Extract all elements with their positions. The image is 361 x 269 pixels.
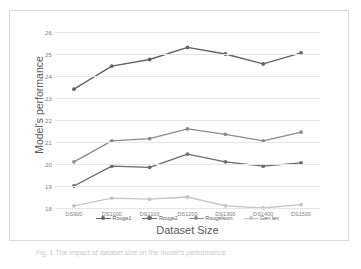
figure-caption: Fig. 1 The impact of dataset size on the… [36, 248, 336, 258]
data-point [72, 87, 76, 91]
data-point [148, 197, 152, 201]
legend-swatch-icon [96, 215, 111, 222]
y-tick-label-23: 23 [45, 95, 52, 102]
gridline-23 [55, 98, 320, 99]
y-tick-label-22: 22 [45, 117, 52, 124]
data-point [186, 46, 190, 50]
gridline-25 [55, 54, 320, 55]
legend-label: Rouge2 [159, 215, 178, 222]
data-point [148, 165, 152, 169]
chart-frame: Model's performance 181920212223242526 D… [9, 10, 349, 241]
data-point [299, 130, 303, 134]
data-point [186, 152, 190, 156]
legend-item-rouge1[interactable]: Rouge1 [96, 215, 131, 222]
x-axis-title: Dataset Size [55, 223, 320, 237]
y-tick-label-24: 24 [45, 73, 52, 80]
legend-label: Rouge1 [113, 215, 132, 222]
y-tick-label-20: 20 [45, 161, 52, 168]
figure-container: Model's performance 181920212223242526 D… [0, 0, 361, 269]
data-point [186, 195, 190, 199]
series-rougelsum [72, 127, 303, 164]
legend-swatch-icon [142, 215, 157, 222]
data-point [110, 196, 114, 200]
data-point [223, 132, 227, 136]
series-rouge1 [72, 46, 303, 92]
gridline-18 [55, 208, 320, 209]
data-point [148, 58, 152, 62]
data-point [299, 203, 303, 207]
legend-item-rouge2[interactable]: Rouge2 [142, 215, 177, 222]
y-tick-label-19: 19 [45, 183, 52, 190]
legend-item-gen-len[interactable]: Gen len [244, 215, 279, 222]
data-point [186, 127, 190, 131]
y-tick-label-25: 25 [45, 51, 52, 58]
gridline-26 [55, 32, 320, 33]
gridline-22 [55, 120, 320, 121]
y-axis-tick-labels: 181920212223242526 [34, 32, 52, 208]
data-point [110, 64, 114, 68]
data-point [148, 137, 152, 141]
legend-swatch-icon [189, 215, 204, 222]
series-line [74, 129, 301, 162]
gridline-19 [55, 186, 320, 187]
gridline-20 [55, 164, 320, 165]
y-tick-label-21: 21 [45, 139, 52, 146]
gridline-24 [55, 76, 320, 77]
data-point [261, 62, 265, 66]
legend-item-rougelsum[interactable]: Rougelsum [189, 215, 233, 222]
series-line [74, 154, 301, 186]
legend-label: Gen len [260, 215, 279, 222]
plot-area [55, 32, 320, 208]
y-tick-label-18: 18 [45, 205, 52, 212]
series-rouge2 [72, 152, 303, 188]
gridline-21 [55, 142, 320, 143]
legend-label: Rougelsum [205, 215, 232, 222]
y-tick-label-26: 26 [45, 29, 52, 36]
legend-swatch-icon [244, 215, 259, 222]
